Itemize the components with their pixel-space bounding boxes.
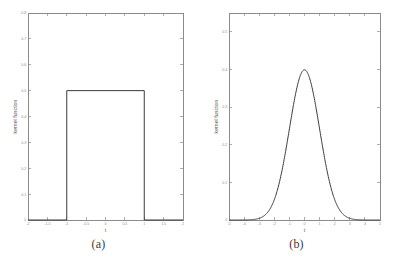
- y-tick-label: 0.2: [21, 167, 26, 171]
- x-tick-label: -4: [242, 222, 245, 226]
- data-curve: [28, 91, 183, 220]
- panel-b: -5-4-3-2-101234500.10.20.30.40.5tkernel …: [198, 0, 395, 264]
- x-tick-label: 1: [319, 222, 321, 226]
- x-tick-label: 0: [105, 222, 107, 226]
- y-tick-label: 0.1: [21, 193, 26, 197]
- y-tick-label: 0.1: [222, 181, 227, 185]
- x-tick-label: 1.5: [161, 222, 166, 226]
- x-tick-label: 0: [304, 222, 306, 226]
- x-tick-label: -1: [65, 222, 68, 226]
- x-tick-label: 5: [379, 222, 381, 226]
- x-tick-label: 3: [349, 222, 351, 226]
- x-tick-label: 1: [143, 222, 145, 226]
- y-tick-label: 0.3: [222, 105, 227, 109]
- y-tick-label: 0.6: [21, 63, 26, 67]
- x-tick-label: -5: [227, 222, 230, 226]
- x-axis-title: t: [105, 227, 107, 233]
- panel-b-caption: (b): [198, 237, 395, 252]
- y-tick-label: 0.4: [21, 115, 26, 119]
- x-axis-title: t: [304, 227, 306, 233]
- plot-frame: [28, 13, 183, 220]
- x-tick-label: -1: [288, 222, 291, 226]
- y-tick-label: 0.3: [21, 141, 26, 145]
- plot-b: -5-4-3-2-101234500.10.20.30.40.5tkernel …: [198, 0, 395, 235]
- y-tick-label: 0.7: [21, 37, 26, 41]
- x-tick-label: -2: [26, 222, 29, 226]
- plot-a: -2-1.5-1-0.500.511.5200.10.20.30.40.50.6…: [0, 0, 197, 235]
- y-axis-title: kernel function: [12, 100, 18, 134]
- y-tick-label: 0: [24, 218, 26, 222]
- panel-a-caption: (a): [0, 237, 197, 252]
- figure-kernel-functions: -2-1.5-1-0.500.511.5200.10.20.30.40.50.6…: [0, 0, 395, 264]
- x-tick-label: 2: [182, 222, 184, 226]
- x-tick-label: 0.5: [122, 222, 127, 226]
- x-tick-label: -1.5: [44, 222, 50, 226]
- x-tick-label: -0.5: [83, 222, 89, 226]
- panel-a: -2-1.5-1-0.500.511.5200.10.20.30.40.50.6…: [0, 0, 197, 264]
- y-tick-label: 0.5: [21, 89, 26, 93]
- x-tick-label: -2: [273, 222, 276, 226]
- data-curve: [229, 70, 380, 220]
- x-tick-label: 4: [364, 222, 366, 226]
- plot-frame: [229, 13, 380, 220]
- y-tick-label: 0.8: [21, 11, 26, 15]
- x-tick-label: 2: [334, 222, 336, 226]
- y-tick-label: 0.5: [222, 30, 227, 34]
- y-tick-label: 0.4: [222, 68, 227, 72]
- y-axis-title: kernel function: [213, 100, 219, 134]
- y-tick-label: 0.2: [222, 143, 227, 147]
- x-tick-label: -3: [258, 222, 261, 226]
- y-tick-label: 0: [225, 218, 227, 222]
